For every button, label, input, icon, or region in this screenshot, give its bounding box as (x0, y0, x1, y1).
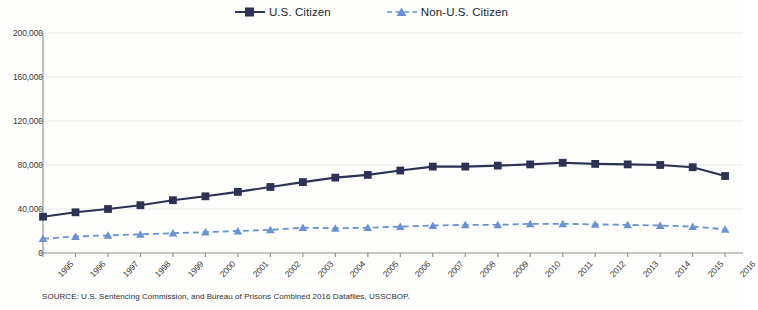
x-axis-label: 1999 (186, 259, 206, 279)
series-non-us-citizen (39, 220, 730, 242)
square-marker-icon (104, 205, 112, 213)
series-us-citizen (39, 159, 729, 221)
square-marker-icon (235, 6, 265, 18)
x-axis-label: 2015 (705, 259, 725, 279)
square-marker-icon (689, 163, 697, 171)
x-axis-label: 1997 (121, 259, 141, 279)
square-marker-icon (234, 188, 242, 196)
legend-label-non-us-citizen: Non-U.S. Citizen (421, 6, 508, 18)
x-axis-label: 1998 (153, 259, 173, 279)
square-marker-icon (331, 174, 339, 182)
square-marker-icon (364, 171, 372, 179)
square-marker-icon (526, 161, 534, 169)
square-marker-icon (624, 161, 632, 169)
triangle-marker-icon (721, 225, 730, 233)
legend-entry-non-us-citizen: Non-U.S. Citizen (387, 6, 508, 18)
triangle-marker-icon (387, 6, 417, 18)
axis-lines (39, 33, 743, 253)
x-axis-label: 2009 (511, 259, 531, 279)
x-axis-label: 2010 (543, 259, 563, 279)
square-marker-icon (429, 163, 437, 171)
x-axis-label: 2004 (348, 259, 368, 279)
x-axis-label: 2008 (478, 259, 498, 279)
x-axis-label: 1996 (88, 259, 108, 279)
square-marker-icon (137, 201, 145, 209)
chart-legend: U.S. Citizen Non-U.S. Citizen (0, 0, 743, 24)
square-marker-icon (591, 160, 599, 168)
square-marker-icon (72, 208, 80, 216)
square-marker-icon (494, 162, 502, 170)
legend-label-us-citizen: U.S. Citizen (269, 6, 331, 18)
x-axis-label: 2014 (673, 259, 693, 279)
x-axis-label: 1995 (56, 259, 76, 279)
square-marker-icon (559, 159, 567, 167)
gridlines (43, 33, 743, 209)
x-axis-label: 2006 (413, 259, 433, 279)
x-axis-tick-labels: 1995199619971998199920002001200220032004… (0, 255, 743, 293)
square-marker-icon (202, 192, 210, 200)
x-axis-label: 2003 (316, 259, 336, 279)
x-axis-label: 2007 (446, 259, 466, 279)
x-axis-label: 2001 (251, 259, 271, 279)
square-marker-icon (461, 163, 469, 171)
source-note: SOURCE: U.S. Sentencing Commission, and … (42, 292, 410, 301)
square-marker-icon (267, 183, 275, 191)
square-marker-icon (656, 161, 664, 169)
line-chart-plot-area (0, 24, 743, 269)
square-marker-icon (39, 213, 47, 221)
legend-entry-us-citizen: U.S. Citizen (235, 6, 331, 18)
x-axis-label: 2012 (608, 259, 628, 279)
x-axis-label: 2000 (218, 259, 238, 279)
x-axis-label: 2011 (575, 259, 594, 279)
square-marker-icon (169, 196, 177, 204)
square-marker-icon (396, 167, 404, 175)
series-line (43, 224, 725, 239)
x-axis-label: 2002 (283, 259, 303, 279)
x-axis-label: 2016 (738, 259, 758, 279)
x-axis-label: 2005 (381, 259, 401, 279)
square-marker-icon (721, 172, 729, 180)
x-axis-label: 2013 (640, 259, 660, 279)
square-marker-icon (299, 178, 307, 186)
